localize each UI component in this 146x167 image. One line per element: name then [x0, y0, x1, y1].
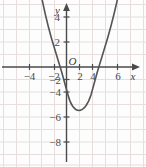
origin-label: O [69, 55, 77, 67]
y-axis-label: y [54, 4, 60, 16]
x-tick-label: −4 [24, 70, 36, 82]
y-tick-label: −6 [49, 111, 61, 123]
y-tick-label: −8 [49, 136, 61, 148]
x-tick-label: 2 [77, 70, 83, 82]
y-tick-label: −2 [49, 74, 61, 86]
x-axis-label: x [130, 70, 136, 82]
coordinate-plane-svg: −4 −2 2 4 6 4 2 −2 −4 −6 −8 O y x [0, 0, 146, 167]
y-tick-label: −4 [49, 86, 61, 98]
y-tick-label: 2 [55, 36, 61, 48]
x-tick-label: 6 [115, 70, 121, 82]
graph-figure: −4 −2 2 4 6 4 2 −2 −4 −6 −8 O y x [0, 0, 146, 167]
